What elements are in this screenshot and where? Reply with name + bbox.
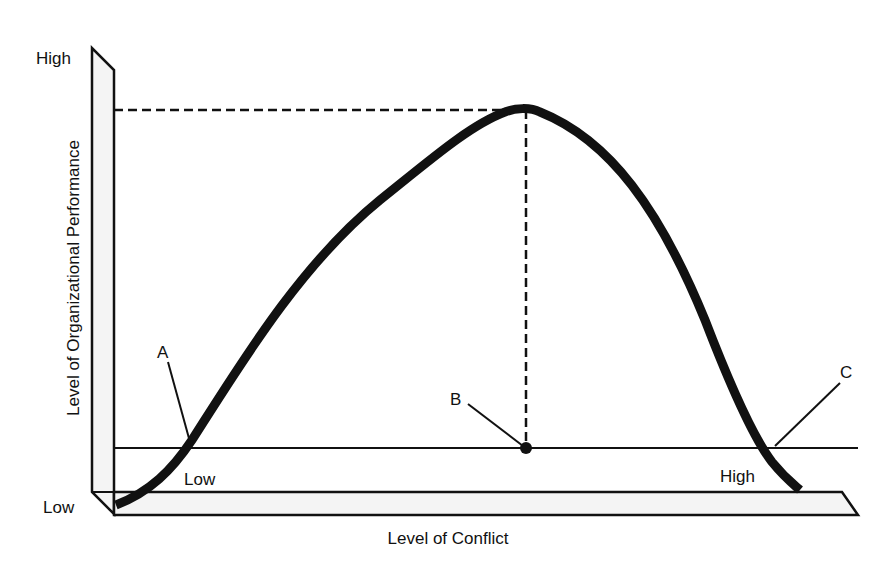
point-b-label: B <box>450 390 461 409</box>
point-c-leader <box>775 383 840 446</box>
point-a-leader <box>168 362 190 442</box>
conflict-performance-diagram: A B C High Low Level of Organizational P… <box>0 0 890 561</box>
x-axis-low-label: Low <box>184 470 216 489</box>
point-c-label: C <box>840 363 852 382</box>
y-axis-title: Level of Organizational Performance <box>64 140 83 416</box>
point-b-leader <box>468 404 523 446</box>
y-axis-low-label: Low <box>43 498 75 517</box>
x-axis-slab <box>92 492 858 515</box>
point-a-label: A <box>157 343 169 362</box>
y-axis-high-label: High <box>36 49 71 68</box>
x-axis-high-label: High <box>720 467 755 486</box>
y-axis-slab <box>92 48 114 514</box>
point-b-marker <box>520 442 532 454</box>
performance-curve <box>116 109 800 505</box>
x-axis-title: Level of Conflict <box>388 529 509 548</box>
